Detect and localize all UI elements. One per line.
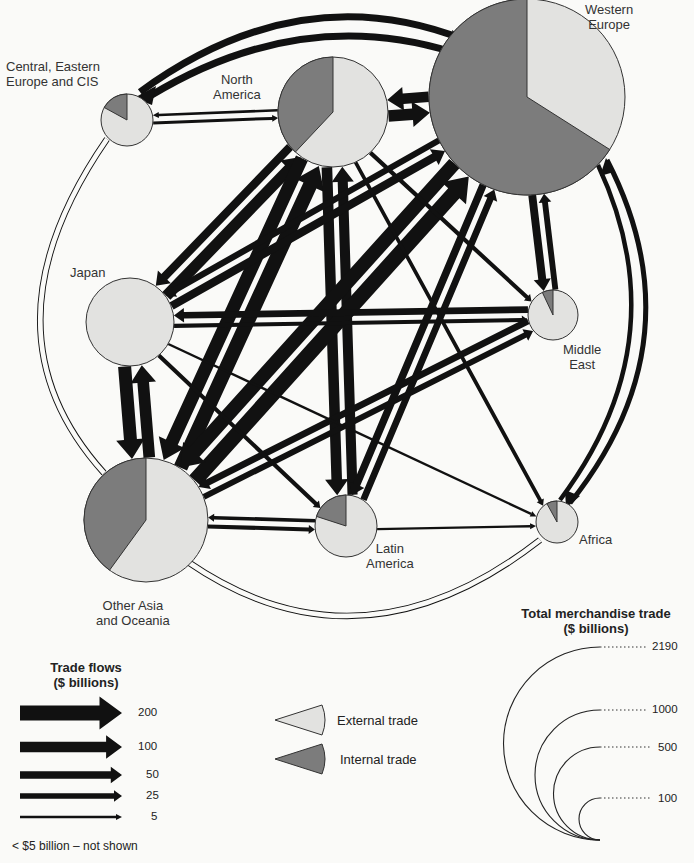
- external-trade-swatch: [275, 705, 325, 735]
- region-label-central-eastern-europe-cis: Central, Eastern Europe and CIS: [6, 59, 100, 89]
- internal-trade-label: Internal trade: [340, 752, 417, 767]
- region-node-me: [528, 290, 578, 340]
- legend-arrow-5-head: [116, 814, 122, 820]
- flow-threshold-note: < $5 billion – not shown: [12, 839, 138, 853]
- region-label-japan: Japan: [70, 265, 105, 280]
- flow-na-to-we: [388, 101, 430, 127]
- size-legend-label-2190: 2190: [652, 640, 678, 652]
- size-legend-label-1000: 1000: [652, 703, 678, 715]
- size-circle-2190: [504, 647, 601, 840]
- legend-arrow-50: [20, 767, 122, 784]
- flow-legend-label-50: 50: [146, 768, 159, 780]
- region-node-cee: [101, 94, 153, 146]
- region-node-jp: [86, 278, 174, 366]
- legend-arrow-200: [20, 697, 122, 730]
- flow-cee-to-na: [153, 115, 278, 124]
- flow-legend-label-200: 200: [138, 706, 157, 718]
- flow-legend-label-5: 5: [151, 810, 157, 822]
- internal-trade-swatch: [275, 744, 325, 774]
- size-legend-label-100: 100: [658, 792, 677, 804]
- flow-la-to-oa: [208, 514, 315, 523]
- region-label-other-asia-oceania: Other Asia and Oceania: [96, 598, 170, 628]
- size-circle-100: [579, 798, 600, 840]
- size-legend-label-500: 500: [658, 741, 677, 753]
- region-label-africa: Africa: [579, 532, 612, 547]
- flow-oa-to-la: [208, 524, 315, 534]
- flow-na-to-cee: [153, 109, 278, 118]
- pie-legend: [275, 705, 325, 774]
- trade-flows-legend-title: Trade flows ($ billions): [36, 660, 136, 690]
- region-label-north-america: North America: [213, 72, 261, 102]
- region-node-af: [536, 501, 578, 543]
- trade-flows-legend: [20, 697, 122, 821]
- region-node-na: [278, 57, 388, 167]
- region-label-latin-america: Latin America: [366, 541, 414, 571]
- flow-legend-label-25: 25: [146, 789, 159, 801]
- flow-la-to-af: [377, 526, 530, 529]
- external-trade-slice: [86, 278, 174, 366]
- legend-arrow-25: [20, 790, 122, 802]
- flow-af-to-we: [570, 160, 646, 503]
- size-legend: [504, 647, 653, 840]
- size-circle-1000: [535, 710, 600, 840]
- flow-la-to-af-head: [530, 523, 536, 529]
- flow-legend-label-100: 100: [138, 740, 157, 752]
- external-trade-label: External trade: [337, 713, 418, 728]
- flow-we-to-na: [387, 87, 429, 110]
- region-label-middle-east: Middle East: [563, 342, 601, 372]
- region-node-oa: [84, 458, 208, 582]
- trade-flow-diagram: [0, 0, 694, 863]
- legend-arrow-100: [20, 735, 122, 758]
- region-label-western-europe: Western Europe: [585, 2, 633, 32]
- total-trade-legend-title: Total merchandise trade ($ billions): [498, 606, 694, 636]
